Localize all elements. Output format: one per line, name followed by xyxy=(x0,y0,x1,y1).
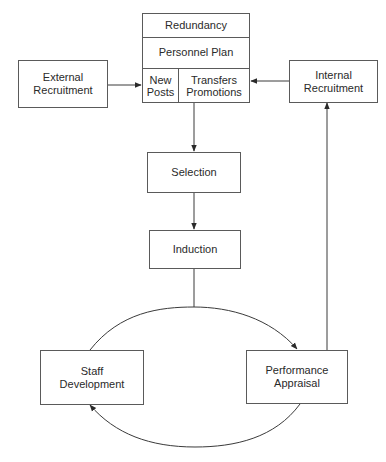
external-recruitment-label: External Recruitment xyxy=(33,71,92,97)
new-posts-cell: New Posts xyxy=(143,69,179,103)
induction-label: Induction xyxy=(173,243,218,256)
posts-row: New Posts Transfers Promotions xyxy=(143,69,249,103)
selection-label: Selection xyxy=(171,166,216,179)
staff-development-node: Staff Development xyxy=(40,350,144,405)
arc-appraisal-to-development xyxy=(90,404,300,447)
selection-node: Selection xyxy=(147,152,241,193)
redundancy-row: Redundancy xyxy=(143,14,249,38)
external-recruitment-node: External Recruitment xyxy=(18,60,108,108)
performance-appraisal-node: Performance Appraisal xyxy=(246,350,348,404)
internal-recruitment-label: Internal Recruitment xyxy=(304,69,363,95)
personnel-plan-label: Personnel Plan xyxy=(159,46,234,59)
personnel-plan-row: Personnel Plan xyxy=(143,37,249,69)
personnel-plan-block: Redundancy Personnel Plan New Posts Tran… xyxy=(142,13,250,103)
induction-node: Induction xyxy=(149,230,241,269)
transfers-promotions-cell: Transfers Promotions xyxy=(179,69,249,103)
transfers-promotions-label: Transfers Promotions xyxy=(186,74,242,98)
redundancy-label: Redundancy xyxy=(165,19,227,32)
new-posts-label: New Posts xyxy=(147,74,175,98)
arc-development-to-appraisal xyxy=(90,307,297,350)
staff-development-label: Staff Development xyxy=(60,365,125,391)
performance-appraisal-label: Performance Appraisal xyxy=(266,364,329,390)
internal-recruitment-node: Internal Recruitment xyxy=(289,60,378,103)
